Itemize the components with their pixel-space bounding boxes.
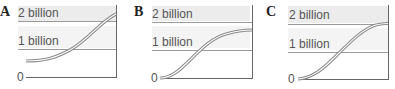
plot-b [130,0,262,89]
y-label-2-billion: 2 billion [18,6,59,20]
y-label-1-billion: 1 billion [152,35,193,49]
panel-a: A 2 billion 1 billion 0 [0,0,132,89]
y-label-zero: 0 [288,72,295,86]
y-label-2-billion: 2 billion [152,7,193,21]
y-label-zero: 0 [151,71,158,85]
y-label-zero: 0 [17,70,24,84]
y-label-1-billion: 1 billion [18,34,59,48]
panel-c: C 2 billion 1 billion 0 [260,0,392,89]
panel-b: B 2 billion 1 billion 0 [130,0,262,89]
y-label-2-billion: 2 billion [289,8,330,22]
y-label-1-billion: 1 billion [289,37,330,51]
